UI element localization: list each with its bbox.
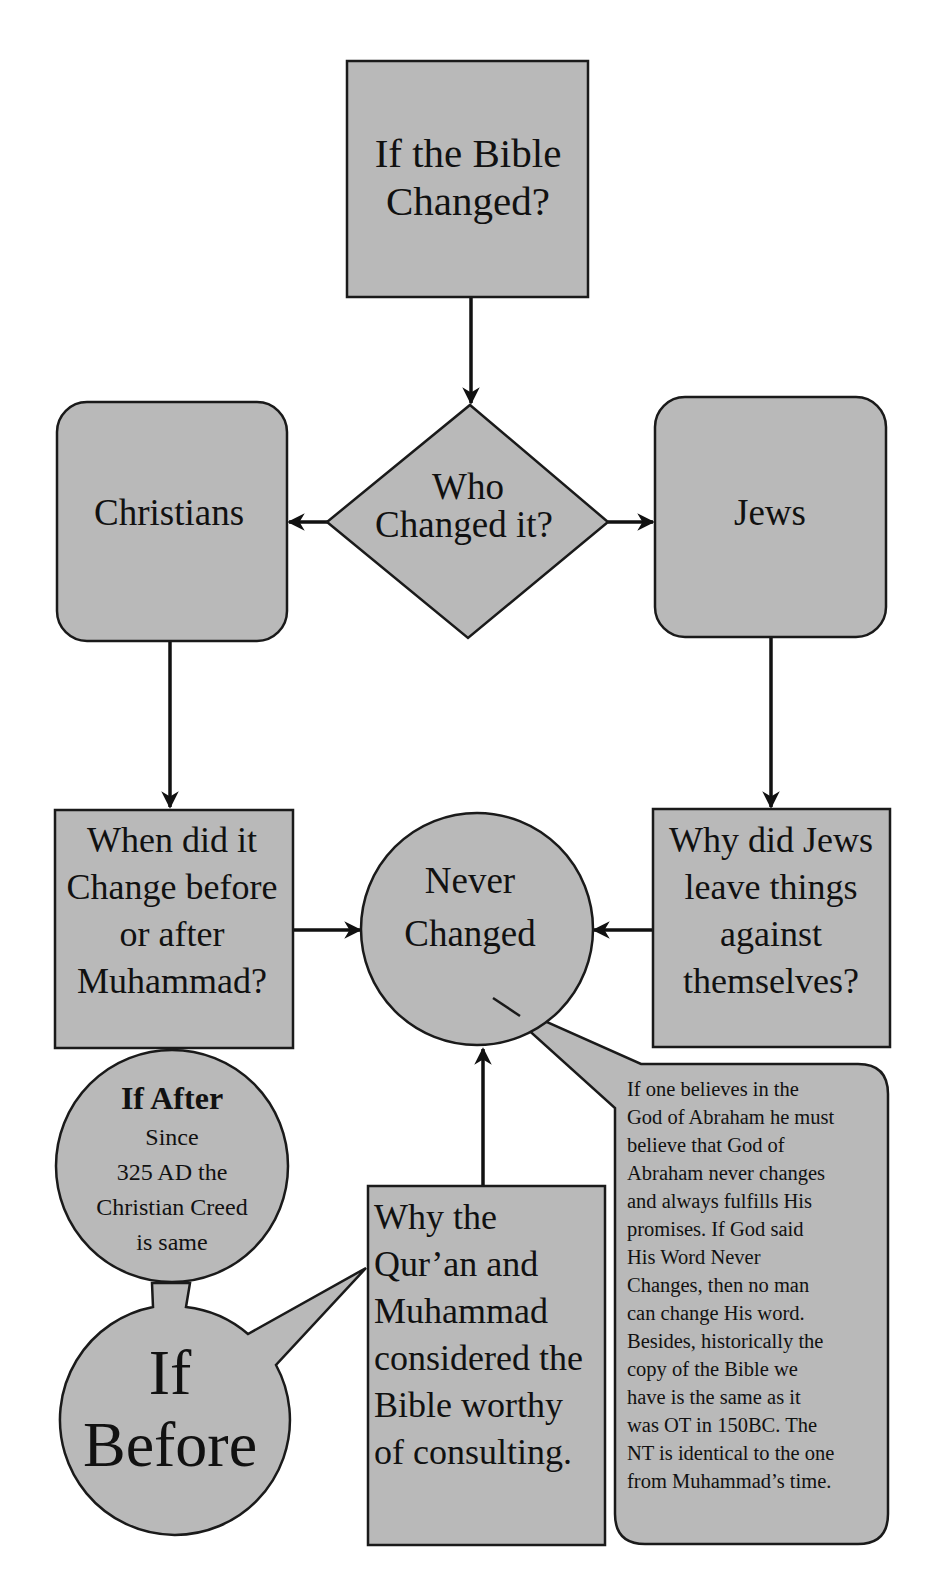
note-line-11: copy of the Bible we <box>627 1358 798 1381</box>
when-line-4: Muhammad? <box>77 961 267 1001</box>
why-quran-line-1: Why the <box>374 1197 497 1237</box>
note-line-3: believe that God of <box>627 1134 785 1156</box>
when-line-1: When did it <box>87 820 257 860</box>
if-after-title: If After <box>121 1080 223 1116</box>
if-after-line-1: Since <box>145 1124 198 1150</box>
why-quran-line-2: Qur’an and <box>374 1244 538 1284</box>
if-after-line-3: Christian Creed <box>96 1194 247 1220</box>
if-after-line-4: is same <box>136 1229 207 1255</box>
why-quran-line-5: Bible worthy <box>374 1385 563 1425</box>
node-if-after: If After Since 325 AD the Christian Cree… <box>56 1050 288 1282</box>
christians-label: Christians <box>94 492 244 533</box>
note-line-6: promises. If God said <box>627 1218 804 1241</box>
node-start: If the Bible Changed? <box>347 61 588 297</box>
decision-line-2: Changed it? <box>375 504 553 545</box>
why-quran-line-3: Muhammad <box>374 1291 548 1331</box>
node-jews: Jews <box>655 397 886 637</box>
why-jews-line-2: leave things <box>685 867 858 907</box>
note-line-10: Besides, historically the <box>627 1330 823 1353</box>
why-jews-line-4: themselves? <box>683 961 859 1001</box>
node-never-changed: Never Changed <box>361 813 593 1045</box>
never-line-2: Changed <box>404 913 536 954</box>
if-before-callout-shape <box>60 1268 366 1535</box>
node-why-jews: Why did Jews leave things against themse… <box>653 809 890 1047</box>
note-line-2: God of Abraham he must <box>627 1106 835 1128</box>
note-line-15: from Muhammad’s time. <box>627 1470 831 1492</box>
note-line-13: was OT in 150BC. The <box>627 1414 817 1436</box>
if-after-line-2: 325 AD the <box>117 1159 228 1185</box>
note-line-8: Changes, then no man <box>627 1274 809 1297</box>
note-line-5: and always fulfills His <box>627 1190 812 1213</box>
when-line-2: Change before <box>67 867 278 907</box>
node-decision: Who Changed it? <box>327 405 608 638</box>
node-christians: Christians <box>57 402 287 641</box>
never-line-1: Never <box>425 860 515 901</box>
why-quran-line-6: of consulting. <box>374 1432 572 1472</box>
why-jews-line-3: against <box>720 914 822 954</box>
note-line-14: NT is identical to the one <box>627 1442 834 1464</box>
note-line-9: can change His word. <box>627 1302 805 1325</box>
why-quran-line-4: considered the <box>374 1338 583 1378</box>
node-why-quran: Why the Qur’an and Muhammad considered t… <box>368 1186 605 1545</box>
decision-line-1: Who <box>432 466 504 507</box>
note-line-12: have is the same as it <box>627 1386 801 1408</box>
note-line-4: Abraham never changes <box>627 1162 825 1185</box>
when-line-3: or after <box>120 914 225 954</box>
if-before-line-2: Before <box>83 1409 257 1480</box>
why-jews-line-1: Why did Jews <box>669 820 873 860</box>
note-line-1: If one believes in the <box>627 1078 799 1100</box>
flowchart-canvas: If the Bible Changed? Who Changed it? Ch… <box>0 0 949 1595</box>
node-when-changed: When did it Change before or after Muham… <box>55 810 293 1048</box>
note-line-7: His Word Never <box>627 1246 761 1268</box>
start-line-2: Changed? <box>386 178 550 224</box>
node-if-before: If Before <box>60 1268 366 1535</box>
if-before-line-1: If <box>149 1337 192 1408</box>
jews-label: Jews <box>734 492 806 533</box>
start-line-1: If the Bible <box>375 130 562 176</box>
